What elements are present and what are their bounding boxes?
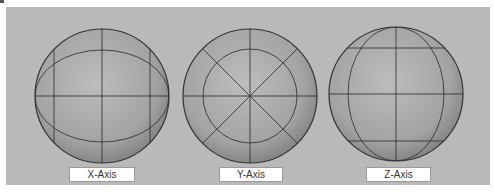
label-x-axis: X-Axis [69,167,135,182]
sphere-z-axis [329,27,463,161]
sphere-x-axis [35,29,169,163]
label-z-axis: Z-Axis [366,167,431,182]
sphere-y-axis [183,29,317,163]
label-y-axis: Y-Axis [219,167,283,182]
spheres-illustration [0,0,494,192]
